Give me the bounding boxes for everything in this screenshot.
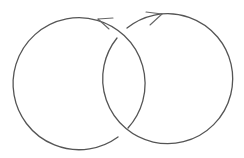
left-circle: [13, 18, 145, 150]
hopf-link-diagram: [0, 0, 244, 158]
diagram-canvas: Hopf link (two interlinked oriented circ…: [0, 0, 244, 158]
right-arrow-icon: [146, 12, 162, 25]
